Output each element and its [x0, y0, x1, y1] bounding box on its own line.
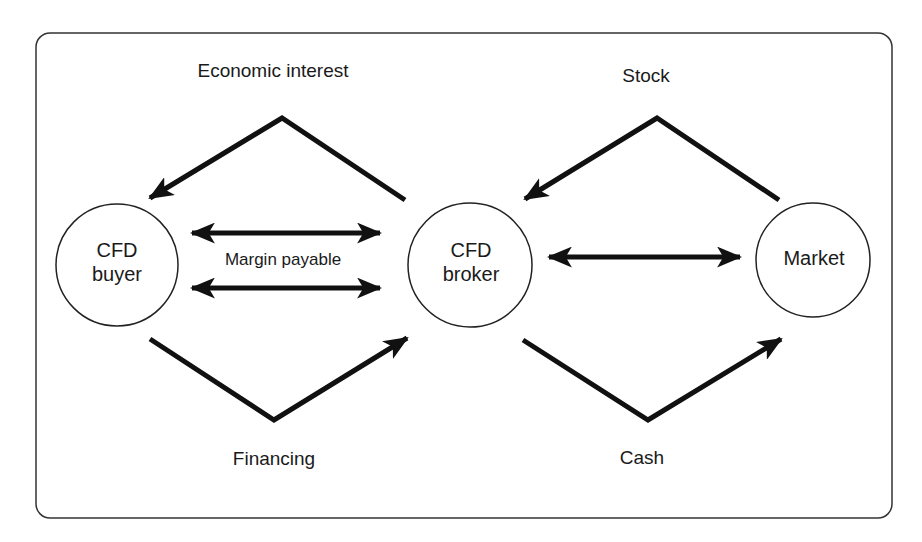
- label-stock: Stock: [622, 65, 670, 87]
- node-label-cfd-broker: CFD broker: [443, 238, 500, 286]
- node-label-line1: CFD: [92, 238, 142, 262]
- arrow-financing: [150, 338, 407, 420]
- node-label-line2: broker: [443, 262, 500, 286]
- label-financing: Financing: [233, 448, 315, 470]
- node-label-market: Market: [783, 246, 844, 270]
- arrow-cash: [523, 339, 781, 420]
- node-label-line2: buyer: [92, 262, 142, 286]
- label-economic-interest: Economic interest: [197, 60, 348, 82]
- node-label-cfd-buyer: CFD buyer: [92, 238, 142, 286]
- label-margin-payable: Margin payable: [225, 250, 341, 270]
- arrow-economic-interest: [150, 118, 405, 200]
- arrow-stock: [525, 118, 779, 200]
- node-label-line1: CFD: [443, 238, 500, 262]
- label-cash: Cash: [620, 447, 664, 469]
